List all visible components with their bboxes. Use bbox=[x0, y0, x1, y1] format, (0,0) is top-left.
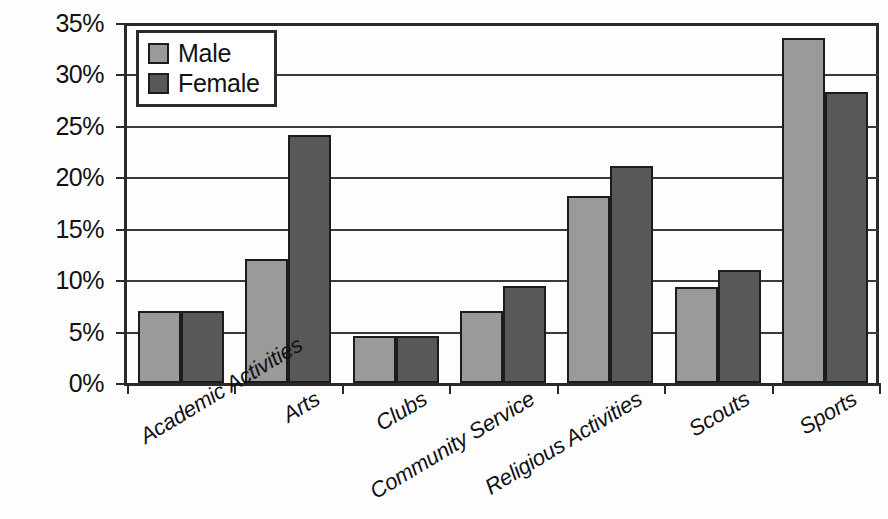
bar-male bbox=[782, 38, 825, 383]
y-tick-mark bbox=[116, 280, 127, 282]
bar-female bbox=[825, 92, 868, 383]
y-tick-label: 0% bbox=[69, 369, 104, 398]
legend-label: Female bbox=[178, 69, 260, 98]
y-tick-mark bbox=[116, 229, 127, 231]
y-tick-label: 10% bbox=[55, 266, 104, 295]
y-tick-mark bbox=[116, 177, 127, 179]
bar-male bbox=[353, 336, 396, 383]
y-tick-label: 30% bbox=[55, 60, 104, 89]
legend: MaleFemale bbox=[136, 30, 277, 107]
bar-male bbox=[675, 287, 718, 383]
y-tick-label: 20% bbox=[55, 163, 104, 192]
bar-group bbox=[449, 23, 556, 383]
legend-item-male: Male bbox=[148, 38, 260, 68]
legend-item-female: Female bbox=[148, 68, 260, 98]
x-tick-mark bbox=[879, 383, 881, 394]
bar-chart: 35%30%25%20%15%10%5%0% MaleFemale Academ… bbox=[0, 0, 888, 519]
y-tick-label: 35% bbox=[55, 9, 104, 38]
y-tick-label: 5% bbox=[69, 317, 104, 346]
legend-label: Male bbox=[178, 39, 231, 68]
y-tick-mark bbox=[116, 332, 127, 334]
bar-female bbox=[610, 166, 653, 383]
x-axis: Academic ActivitiesArtsClubsCommunity Se… bbox=[124, 386, 876, 519]
bar-group bbox=[342, 23, 449, 383]
y-tick-mark bbox=[116, 383, 127, 385]
bar-female bbox=[181, 311, 224, 383]
bar-male bbox=[460, 311, 503, 383]
y-axis: 35%30%25%20%15%10%5%0% bbox=[0, 0, 118, 519]
y-tick-mark bbox=[116, 74, 127, 76]
y-tick-mark bbox=[116, 126, 127, 128]
bar-female bbox=[718, 270, 761, 383]
bar-female bbox=[503, 286, 546, 383]
legend-swatch-icon bbox=[148, 43, 169, 64]
bar-male bbox=[567, 196, 610, 383]
x-tick-label: Academic Activities bbox=[135, 386, 217, 449]
y-tick-label: 15% bbox=[55, 214, 104, 243]
legend-swatch-icon bbox=[148, 73, 169, 94]
bar-group bbox=[772, 23, 879, 383]
y-tick-mark bbox=[116, 23, 127, 25]
bar-group bbox=[664, 23, 771, 383]
bar-female bbox=[396, 336, 439, 383]
bar-male bbox=[138, 311, 181, 383]
bar-group bbox=[557, 23, 664, 383]
y-tick-label: 25% bbox=[55, 111, 104, 140]
